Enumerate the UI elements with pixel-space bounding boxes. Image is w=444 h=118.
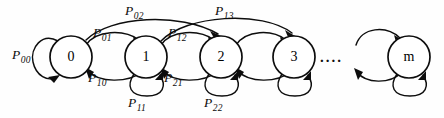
state-label-0: 0 [68, 49, 75, 64]
transition-label-P10: P10 [88, 71, 106, 85]
P21-symbol: P [164, 70, 172, 85]
transition-label-P12: P12 [168, 26, 186, 40]
state-label-1: 1 [143, 49, 150, 64]
transition-label-P22: P22 [204, 96, 222, 110]
P22-symbol: P [204, 95, 212, 110]
P10-subscript: 10 [97, 78, 107, 88]
arrowhead-m-prev [354, 68, 363, 80]
state-label-2: 2 [218, 49, 225, 64]
P11-subscript: 11 [137, 103, 146, 113]
P01-symbol: P [93, 25, 101, 40]
state-node-0[interactable]: 0 [50, 36, 92, 78]
transition-label-P13: P13 [215, 4, 233, 18]
P12-symbol: P [168, 25, 176, 40]
P22-subscript: 22 [213, 103, 223, 113]
transition-label-P11: P11 [128, 96, 145, 110]
transition-label-P02: P02 [125, 4, 143, 18]
P10-symbol: P [88, 70, 96, 85]
P01-subscript: 01 [102, 33, 112, 43]
state-node-1[interactable]: 1 [125, 36, 167, 78]
P12-subscript: 12 [177, 33, 187, 43]
diagram-canvas: 0 1 2 3 m .... P00 P01 P02 P10 P11 P12 P… [0, 0, 444, 118]
state-label-m: m [404, 49, 415, 64]
state-node-3[interactable]: 3 [273, 36, 315, 78]
P13-subscript: 13 [224, 11, 234, 21]
P11-symbol: P [128, 95, 136, 110]
state-label-3: 3 [291, 49, 298, 64]
P02-subscript: 02 [134, 11, 144, 21]
P21-subscript: 21 [173, 78, 183, 88]
P00-symbol: P [12, 47, 20, 62]
P02-symbol: P [125, 3, 133, 18]
P00-subscript: 00 [21, 55, 31, 65]
transition-label-P01: P01 [93, 26, 111, 40]
state-node-2[interactable]: 2 [200, 36, 242, 78]
ellipsis-dots: .... [320, 49, 343, 65]
transition-label-P00: P00 [12, 48, 30, 62]
state-node-m[interactable]: m [388, 36, 430, 78]
P13-symbol: P [215, 3, 223, 18]
transition-label-P21: P21 [164, 71, 182, 85]
